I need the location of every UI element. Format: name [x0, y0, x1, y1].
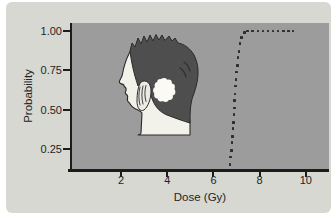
y-tick-mark: [63, 30, 70, 32]
data-point-dot: [235, 71, 238, 74]
data-point-dot: [236, 64, 239, 67]
y-axis-title: Probability: [22, 69, 34, 123]
x-tick-label: 6: [201, 174, 225, 187]
data-point-dot: [240, 36, 243, 39]
data-point-dot: [237, 56, 240, 59]
data-point-dot: [232, 121, 235, 124]
figure-panel: 0.250.500.751.00246810 Probability Dose …: [6, 2, 331, 213]
data-point-dot: [233, 99, 236, 102]
data-point-dot: [282, 30, 285, 33]
data-point-dot: [231, 135, 234, 138]
y-tick-mark: [63, 109, 70, 111]
data-point-dot: [243, 31, 246, 34]
x-tick-label: 10: [294, 174, 318, 187]
x-tick-label: 2: [109, 174, 133, 187]
data-point-dot: [230, 149, 233, 152]
head-profile-illustration: [117, 31, 205, 139]
data-point-dot: [251, 30, 254, 33]
y-tick-label: 0.25: [20, 143, 62, 155]
x-axis-line: [68, 169, 329, 172]
x-tick-label: 4: [155, 174, 179, 187]
data-point-dot: [231, 141, 234, 144]
figure-page: 0.250.500.751.00246810 Probability Dose …: [0, 0, 336, 221]
x-tick-label: 8: [248, 174, 272, 187]
y-tick-mark: [63, 148, 70, 150]
y-axis-line: [70, 23, 72, 172]
y-tick-mark: [63, 69, 70, 71]
data-point-dot: [233, 113, 236, 116]
data-point-dot: [238, 50, 241, 53]
data-point-dot: [287, 30, 290, 33]
data-point-dot: [239, 42, 242, 45]
data-point-dot: [229, 156, 232, 159]
x-axis-title: Dose (Gy): [140, 191, 260, 203]
y-tick-label: 1.00: [20, 25, 62, 37]
data-point-dot: [246, 30, 249, 33]
